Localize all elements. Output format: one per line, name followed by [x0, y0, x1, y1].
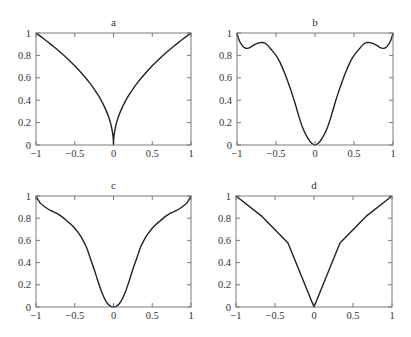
y-tick-label: 0.6 [18, 72, 31, 83]
subplot-d: d −1−0.500.5100.20.40.60.81 [218, 179, 395, 321]
subplot-title: d [311, 179, 317, 191]
y-tick-label: 0 [26, 302, 31, 313]
x-tick-label: −1 [30, 148, 41, 159]
y-tick-label: 0.4 [219, 95, 233, 106]
x-tick-label: 0 [312, 148, 317, 159]
y-tick-label: 1 [227, 28, 232, 39]
x-tick-label: 0.5 [346, 310, 359, 321]
y-tick-label: 1 [226, 191, 231, 202]
ticks: −1−0.500.5100.20.40.60.81 [218, 191, 395, 322]
x-tick-label: −1 [30, 310, 41, 321]
x-tick-label: 1 [188, 148, 193, 159]
y-tick-label: 0.2 [219, 117, 232, 128]
x-tick-label: 0.5 [146, 148, 159, 159]
x-tick-label: −0.5 [65, 148, 84, 159]
subplot-title: a [111, 16, 116, 28]
y-tick-label: 0.2 [18, 117, 31, 128]
y-tick-label: 0.6 [219, 72, 232, 83]
ticks: −1−0.500.5100.20.40.60.81 [219, 28, 396, 160]
y-tick-label: 0.4 [18, 95, 32, 106]
y-tick-label: 0.4 [218, 257, 232, 268]
curve-a [36, 33, 191, 145]
y-tick-label: 0.8 [219, 50, 232, 61]
x-tick-label: −1 [230, 310, 241, 321]
subplot-a: a −1−0.500.5100.20.40.60.81 [18, 16, 194, 159]
axes-frame [36, 33, 191, 145]
x-tick-label: −0.5 [266, 148, 285, 159]
x-tick-label: 0.5 [146, 310, 159, 321]
y-tick-label: 0 [226, 302, 231, 313]
axes-frame [36, 196, 191, 307]
y-tick-label: 0.8 [18, 213, 31, 224]
x-tick-label: −1 [231, 148, 242, 159]
x-tick-label: −0.5 [265, 310, 284, 321]
y-tick-label: 0.6 [218, 235, 231, 246]
subplot-title: c [111, 179, 116, 191]
subplot-title: b [312, 16, 318, 28]
x-tick-label: 0 [111, 148, 116, 159]
y-tick-label: 0.4 [18, 257, 32, 268]
y-tick-label: 1 [26, 28, 31, 39]
axes-frame [236, 196, 392, 307]
figure: a −1−0.500.5100.20.40.60.81 b −1−0.500.5… [0, 0, 411, 337]
subplot-c: c −1−0.500.5100.20.40.60.81 [18, 179, 194, 321]
y-tick-label: 0.2 [18, 279, 31, 290]
y-tick-label: 0.8 [18, 50, 31, 61]
y-tick-label: 0.2 [218, 279, 231, 290]
y-tick-label: 1 [26, 191, 31, 202]
axes-frame [237, 33, 393, 145]
x-tick-label: 1 [389, 310, 394, 321]
subplot-b: b −1−0.500.5100.20.40.60.81 [219, 16, 396, 159]
x-tick-label: −0.5 [65, 310, 84, 321]
curve-c [36, 196, 191, 307]
y-tick-label: 0 [26, 140, 31, 151]
x-tick-label: 0.5 [347, 148, 360, 159]
ticks: −1−0.500.5100.20.40.60.81 [18, 28, 194, 160]
curve-b [237, 33, 393, 145]
x-tick-label: 1 [390, 148, 395, 159]
y-tick-label: 0 [227, 140, 232, 151]
x-tick-label: 1 [188, 310, 193, 321]
y-tick-label: 0.6 [18, 235, 31, 246]
y-tick-label: 0.8 [218, 213, 231, 224]
x-tick-label: 0 [311, 310, 316, 321]
x-tick-label: 0 [111, 310, 116, 321]
curve-d [236, 196, 392, 307]
